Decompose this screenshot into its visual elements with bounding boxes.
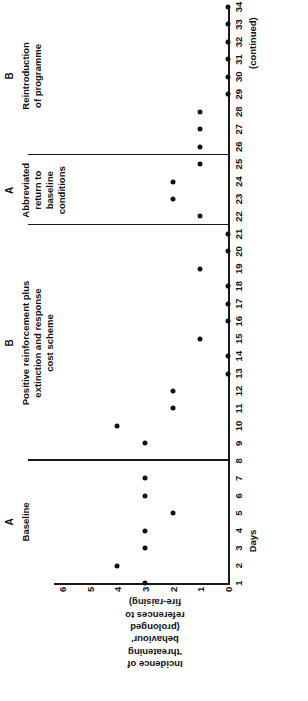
x-tick-label-2: 2 [233,563,244,568]
y-axis-title: Incidence of'threateningbehaviour'(prolo… [125,596,185,670]
x-tick-label-10: 10 [233,421,244,432]
phase-divider-2 [28,224,228,226]
data-point-day-17 [226,301,231,306]
phase-divider-3 [28,154,228,156]
x-tick-label-16: 16 [233,316,244,327]
x-tick-label-24: 24 [233,176,244,187]
phase-caption-1: Baseline [20,502,32,541]
x-tick-label-22: 22 [233,211,244,222]
x-tick-label-13: 13 [233,368,244,379]
x-tick-label-29: 29 [233,89,244,100]
phase-divider-1 [28,459,228,461]
phase-caption-line: Reintroduction [20,42,32,110]
x-tick-label-26: 26 [233,141,244,152]
data-point-day-24 [170,179,175,184]
x-tick-label-28: 28 [233,106,244,117]
data-point-day-27 [198,127,203,132]
data-point-day-19 [198,266,203,271]
data-point-day-5 [170,511,175,516]
data-point-day-7 [143,476,148,481]
phase-caption-line: Baseline [20,502,32,541]
x-tick-label-25: 25 [233,159,244,170]
data-point-day-21 [226,231,231,236]
data-point-day-16 [226,319,231,324]
data-point-day-3 [143,546,148,551]
data-point-day-34 [226,5,231,10]
x-tick-label-12: 12 [233,386,244,397]
data-point-day-30 [226,74,231,79]
x-tick-label-14: 14 [233,351,244,362]
data-point-day-6 [143,493,148,498]
data-point-day-12 [170,389,175,394]
y-axis-title-line: 'threatening [125,645,185,657]
phase-letter-3: A [4,187,15,194]
x-tick-label-30: 30 [233,72,244,83]
data-point-day-4 [143,528,148,533]
data-point-day-13 [226,371,231,376]
x-axis-title: Days [247,530,258,553]
phase-caption-line: of programme [32,42,44,110]
data-point-day-26 [198,144,203,149]
y-axis-title-line: behaviour' [125,633,185,645]
data-point-day-10 [115,423,120,428]
phase-caption-4: Reintroductionof programme [20,42,44,110]
phase-caption-2: Positive reinforcement plusextinction an… [20,281,56,406]
x-tick-label-20: 20 [233,246,244,257]
x-tick-label-1: 1 [233,580,244,585]
data-point-day-33 [226,22,231,27]
x-tick-label-21: 21 [233,229,244,240]
y-axis-title-line: fire-raising) [125,596,185,608]
phase-caption-3: Abbreviatedreturn tobaselineconditions [20,163,68,218]
x-tick-label-33: 33 [233,19,244,30]
phase-caption-line: Positive reinforcement plus [20,281,32,406]
data-point-day-22 [198,214,203,219]
phase-caption-line: extinction and response [32,281,44,406]
data-point-day-23 [170,197,175,202]
phase-caption-line: return to [32,163,44,218]
x-tick-label-7: 7 [233,476,244,481]
data-point-day-28 [198,109,203,114]
x-tick-label-3: 3 [233,545,244,550]
data-point-day-31 [226,57,231,62]
data-point-day-18 [226,284,231,289]
data-point-day-11 [170,406,175,411]
x-tick-label-8: 8 [233,458,244,463]
data-point-day-32 [226,39,231,44]
data-point-day-14 [226,354,231,359]
phase-caption-line: baseline [44,163,56,218]
x-tick-label-32: 32 [233,37,244,48]
data-point-day-29 [226,92,231,97]
x-tick-label-17: 17 [233,298,244,309]
figure-rotator: 1234567891011121314151617181920212223242… [0,0,308,701]
x-tick-label-23: 23 [233,194,244,205]
data-point-day-2 [115,563,120,568]
phase-letter-4: B [4,72,15,79]
x-tick-label-15: 15 [233,333,244,344]
chart-plot-area: 1234567891011121314151617181920212223242… [0,0,308,701]
x-tick-label-18: 18 [233,281,244,292]
phase-caption-line: conditions [56,163,68,218]
phase-caption-line: cost scheme [44,281,56,406]
x-tick-label-4: 4 [233,528,244,533]
x-tick-label-19: 19 [233,264,244,275]
data-point-day-1 [143,581,148,586]
data-point-day-25 [198,162,203,167]
x-tick-label-31: 31 [233,54,244,65]
y-axis-title-line: Incidence of [125,658,185,670]
x-tick-label-11: 11 [233,403,244,413]
y-axis-title-line: references to [125,608,185,620]
x-tick-label-34: 34 [233,2,244,13]
data-point-day-15 [198,336,203,341]
y-axis-title-line: (prolonged [125,621,185,633]
data-point-day-20 [226,249,231,254]
data-point-day-9 [143,441,148,446]
phase-letter-2: B [4,339,15,346]
x-tick-label-5: 5 [233,511,244,516]
phase-caption-line: Abbreviated [20,163,32,218]
x-tick-label-9: 9 [233,441,244,446]
x-tick-label-27: 27 [233,124,244,135]
x-tick-label-6: 6 [233,493,244,498]
continued-note: (continued) [247,17,258,69]
phase-letter-1: A [4,518,15,525]
